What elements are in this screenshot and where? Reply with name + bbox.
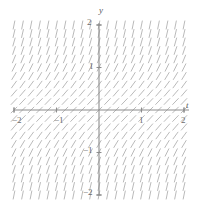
field-segment xyxy=(140,165,143,174)
field-segment xyxy=(130,124,136,131)
field-segment xyxy=(147,132,152,139)
field-segment xyxy=(131,148,135,156)
field-segment xyxy=(115,165,118,174)
y-tick-label-minus-2: −2 xyxy=(83,188,93,197)
field-segment xyxy=(115,174,117,183)
field-segment xyxy=(39,21,41,30)
field-segment xyxy=(13,21,15,30)
field-segment xyxy=(38,38,40,47)
field-segment xyxy=(165,72,170,80)
field-segment xyxy=(20,90,26,97)
field-segment xyxy=(28,90,34,97)
field-segment xyxy=(63,63,67,71)
field-segment xyxy=(183,191,185,200)
field-segment xyxy=(63,140,68,148)
field-segment xyxy=(113,90,119,97)
field-segment xyxy=(107,191,109,200)
field-segment xyxy=(71,140,76,148)
field-segment xyxy=(72,29,74,38)
field-segment xyxy=(89,174,91,183)
field-segment xyxy=(182,63,186,71)
field-segment xyxy=(148,63,152,71)
field-segment xyxy=(29,63,33,71)
field-segment xyxy=(106,174,108,183)
field-segment xyxy=(37,148,41,156)
field-segment xyxy=(115,182,117,191)
field-segment xyxy=(55,46,58,55)
field-segment xyxy=(106,29,108,38)
field-segment xyxy=(157,38,159,47)
field-segment xyxy=(122,90,128,97)
field-segment xyxy=(28,115,34,121)
field-segment xyxy=(46,55,49,63)
field-segment xyxy=(156,90,162,97)
field-segment xyxy=(106,157,109,165)
y-axis-label: y xyxy=(99,6,103,15)
field-segment xyxy=(124,191,126,200)
field-segment xyxy=(181,81,186,88)
field-segment xyxy=(157,157,160,165)
field-segment xyxy=(64,165,67,174)
field-segment xyxy=(182,157,185,165)
field-segment xyxy=(122,148,126,156)
field-segment xyxy=(157,29,159,38)
field-segment xyxy=(80,63,84,71)
field-segment xyxy=(45,98,51,104)
field-segment xyxy=(21,165,24,174)
field-segment xyxy=(55,157,58,165)
field-segment xyxy=(149,29,151,38)
field-segment xyxy=(54,81,59,88)
field-segment xyxy=(37,63,41,71)
field-segment xyxy=(29,140,34,148)
field-segment xyxy=(79,98,85,104)
field-segment xyxy=(38,182,40,191)
field-segment xyxy=(72,46,75,55)
field-segment xyxy=(12,72,17,80)
field-segment xyxy=(64,182,66,191)
field-segment xyxy=(165,148,169,156)
field-segment xyxy=(174,46,177,55)
field-segment xyxy=(147,115,153,121)
field-segment xyxy=(72,174,74,183)
field-segment xyxy=(156,63,160,71)
field-segment xyxy=(157,46,160,55)
field-segment xyxy=(139,90,145,97)
field-segment xyxy=(13,182,15,191)
field-segment xyxy=(21,157,24,165)
field-segment xyxy=(156,148,160,156)
field-segment xyxy=(182,55,185,63)
field-segment xyxy=(54,63,58,71)
field-segment xyxy=(121,115,127,121)
field-segment xyxy=(140,55,143,63)
field-segment xyxy=(173,90,179,97)
field-segment xyxy=(157,174,159,183)
field-segment xyxy=(22,21,24,30)
field-segment xyxy=(139,148,143,156)
field-segment xyxy=(124,21,126,30)
field-segment xyxy=(139,72,144,80)
field-segment xyxy=(140,46,143,55)
field-segment xyxy=(114,63,118,71)
field-segment xyxy=(71,124,77,131)
field-segment xyxy=(47,29,49,38)
field-segment xyxy=(183,174,185,183)
field-segment xyxy=(113,132,118,139)
field-segment xyxy=(21,38,23,47)
x-tick-label-1: 1 xyxy=(139,116,144,125)
field-segment xyxy=(63,157,66,165)
field-segment xyxy=(166,46,169,55)
field-segment xyxy=(11,81,16,88)
field-segment xyxy=(63,55,66,63)
field-segment xyxy=(138,98,144,104)
field-segment xyxy=(79,81,84,88)
field-segment xyxy=(157,165,160,174)
field-segment xyxy=(37,72,42,80)
field-segment xyxy=(173,124,179,131)
field-segment xyxy=(81,38,83,47)
field-segment xyxy=(72,157,75,165)
field-segment xyxy=(174,165,177,174)
field-segment xyxy=(72,165,75,174)
field-segment xyxy=(139,140,144,148)
field-segment xyxy=(46,157,49,165)
field-segment xyxy=(70,115,76,121)
